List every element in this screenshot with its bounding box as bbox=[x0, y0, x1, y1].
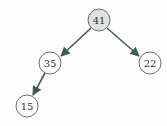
node-35: 35 bbox=[39, 52, 61, 74]
tree-svg: 41 35 22 15 bbox=[0, 0, 167, 126]
node-label: 15 bbox=[21, 101, 34, 112]
node-label: 35 bbox=[44, 58, 57, 69]
edge-41-35 bbox=[61, 28, 91, 56]
node-15: 15 bbox=[16, 95, 38, 117]
tree-diagram: 41 35 22 15 bbox=[0, 0, 167, 126]
edge-35-15 bbox=[33, 73, 45, 95]
node-label: 41 bbox=[93, 15, 106, 26]
node-22: 22 bbox=[139, 52, 161, 74]
edge-41-22 bbox=[107, 28, 139, 56]
node-41: 41 bbox=[88, 9, 110, 31]
node-label: 22 bbox=[144, 58, 157, 69]
